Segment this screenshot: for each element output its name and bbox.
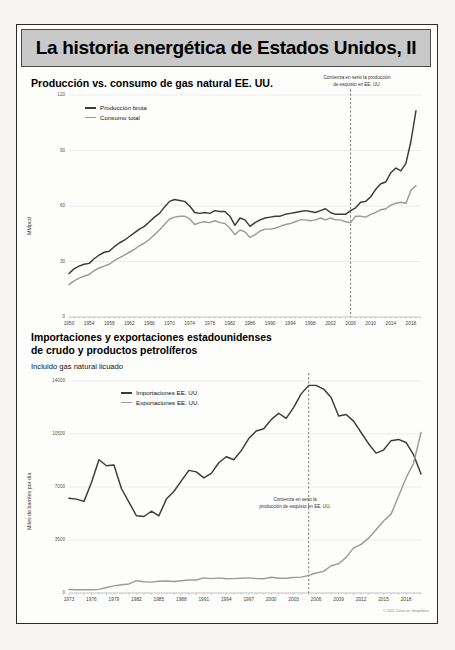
chart2-title-line2: de crudo y productos petrolíferos: [31, 344, 371, 357]
chart2-subtitle: Incluido gas natural licuado: [31, 362, 123, 371]
x-axis-tick-label: 2006: [304, 597, 328, 602]
chart2-plot-area: [31, 373, 427, 605]
x-axis-tick-label: 2009: [327, 597, 351, 602]
chart2-title-line1: Importaciones y exportaciones estadounid…: [31, 331, 371, 344]
x-axis-tick-label: 1991: [192, 597, 216, 602]
chart2-plot-svg: [31, 373, 427, 605]
y-axis-tick-label: 30: [35, 259, 65, 264]
chart1-title: Producción vs. consumo de gas natural EE…: [31, 77, 273, 89]
series-line-1: [69, 385, 421, 516]
chart1-annotation-line2: de esquisto en EE. UU.: [293, 82, 421, 89]
x-axis-tick-label: 2003: [282, 597, 306, 602]
y-axis-tick-label: 120: [35, 92, 65, 97]
chart1-plot-svg: [31, 89, 427, 329]
y-axis-tick-label: 0: [35, 590, 65, 595]
y-axis-tick-label: 90: [35, 148, 65, 153]
series-line-1: [69, 111, 416, 274]
x-axis-tick-label: 1979: [102, 597, 126, 602]
y-axis-tick-label: 0: [35, 314, 65, 319]
x-axis-tick-label: 1985: [147, 597, 171, 602]
x-axis-tick-label: 1988: [169, 597, 193, 602]
x-axis-tick-label: 2018: [399, 321, 423, 326]
credit-text: © 2022 Julian on Geopolitics: [383, 609, 429, 613]
chart1-annotation: Comienza en serio la producción de esqui…: [293, 75, 421, 88]
banner-header: La historia energética de Estados Unidos…: [21, 29, 431, 67]
page-title: La historia energética de Estados Unidos…: [36, 37, 417, 59]
y-axis-tick-label: 60: [35, 203, 65, 208]
chart2-title-block: Importaciones y exportaciones estadounid…: [31, 331, 371, 357]
x-axis-tick-label: 1973: [57, 597, 81, 602]
x-axis-tick-label: 1997: [237, 597, 261, 602]
x-axis-tick-label: 1982: [124, 597, 148, 602]
series-line-2: [69, 186, 416, 285]
series-line-2: [69, 432, 421, 589]
y-axis-tick-label: 3500: [35, 537, 65, 542]
x-axis-tick-label: 2012: [349, 597, 373, 602]
x-axis-tick-label: 1994: [214, 597, 238, 602]
chart1-plot-area: [31, 89, 427, 329]
x-axis-tick-label: 2015: [372, 597, 396, 602]
y-axis-tick-label: 14000: [35, 378, 65, 383]
x-axis-tick-label: 2018: [394, 597, 418, 602]
chart1-annotation-line1: Comienza en serio la producción: [293, 75, 421, 82]
x-axis-tick-label: 2000: [259, 597, 283, 602]
y-axis-tick-label: 10500: [35, 431, 65, 436]
x-axis-tick-label: 1976: [79, 597, 103, 602]
poster-page: La historia energética de Estados Unidos…: [0, 0, 455, 650]
poster-sheet: La historia energética de Estados Unidos…: [16, 24, 438, 624]
y-axis-tick-label: 7000: [35, 484, 65, 489]
